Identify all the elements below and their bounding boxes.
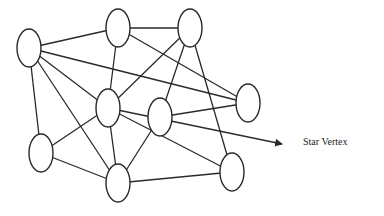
vertex-I <box>220 153 244 191</box>
star-vertex-label: Star Vertex <box>303 136 348 147</box>
edge-A-F <box>29 48 248 103</box>
vertex-E <box>148 98 172 136</box>
vertex-B <box>106 9 130 47</box>
graph-diagram <box>0 0 384 216</box>
vertex-G <box>29 134 53 172</box>
vertex-D <box>96 89 120 127</box>
vertex-F <box>236 84 260 122</box>
edge-C-I <box>190 28 232 172</box>
vertex-C <box>178 9 202 47</box>
edge-H-I <box>118 172 232 183</box>
edges-group <box>29 28 248 183</box>
edge-A-B <box>29 28 118 48</box>
vertex-A <box>17 29 41 67</box>
vertex-H <box>106 164 130 202</box>
edge-A-D <box>29 48 108 108</box>
edge-E-F <box>160 103 248 117</box>
nodes-group <box>17 9 260 202</box>
